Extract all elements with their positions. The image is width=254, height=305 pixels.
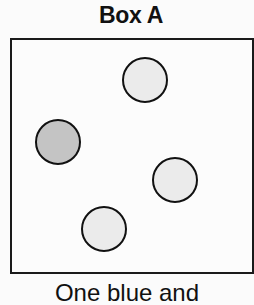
circle-left-shaded bbox=[36, 120, 80, 164]
circle-right bbox=[153, 158, 197, 202]
circle-top bbox=[123, 58, 167, 102]
circle-bottom bbox=[82, 207, 126, 251]
caption-text: One blue and bbox=[0, 278, 254, 305]
